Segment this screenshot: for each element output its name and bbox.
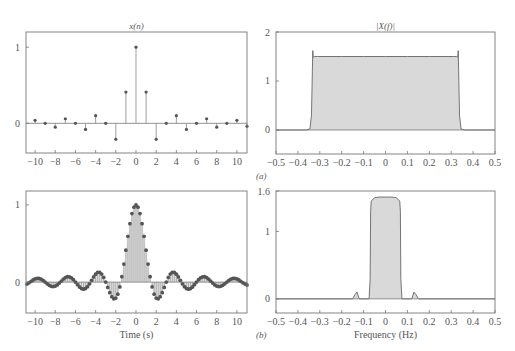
chart-title: |X(f)| (376, 21, 395, 31)
x-axis-label: Time (s) (120, 329, 154, 341)
stem-marker (44, 122, 47, 125)
stem-marker (74, 122, 77, 125)
stem-marker (205, 117, 208, 120)
x-tick-label: −10 (27, 316, 43, 327)
x-tick-label: 0 (383, 157, 388, 168)
x-tick-label: 10 (232, 156, 242, 167)
stem-marker (235, 119, 238, 122)
x-tick-label: −0.4 (289, 316, 307, 327)
stem-marker (175, 114, 178, 117)
stem-marker (124, 91, 127, 94)
figure: −10−8−6−4−2024681001x(n)−0.5−0.4−0.3−0.2… (0, 0, 515, 351)
stem-marker (64, 117, 67, 120)
x-tick-label: 4 (174, 316, 179, 327)
x-tick-label: −0.2 (333, 157, 351, 168)
stem-marker (130, 212, 134, 216)
stem-marker (138, 212, 142, 216)
x-tick-label: −0.1 (355, 157, 373, 168)
stem-marker (128, 222, 132, 226)
stem-marker (158, 295, 162, 299)
chart-title: x(n) (128, 21, 144, 31)
x-tick-label: −6 (70, 316, 81, 327)
stem-marker (195, 122, 198, 125)
stem-marker (108, 291, 112, 295)
x-tick-label: −0.3 (311, 316, 329, 327)
x-tick-label: 0 (383, 316, 388, 327)
x-tick-label: 8 (214, 156, 219, 167)
x-tick-label: −8 (50, 316, 61, 327)
stem-marker (54, 126, 57, 129)
stem-marker (104, 122, 107, 125)
stem-marker (164, 280, 168, 284)
x-tick-label: 0.3 (445, 157, 458, 168)
stem-marker (90, 278, 94, 282)
stem-marker (104, 280, 108, 284)
spectrum-fill (276, 197, 495, 299)
y-tick-label: 1 (15, 199, 20, 210)
x-tick-label: −8 (50, 156, 61, 167)
x-tick-label: −0.3 (311, 157, 329, 168)
x-tick-label: 10 (232, 316, 242, 327)
panel-tr: −0.5−0.4−0.3−0.2−0.100.10.20.30.40.5012|… (256, 21, 501, 181)
x-axis-label: Frequency (Hz) (354, 329, 417, 341)
x-tick-label: 6 (194, 316, 199, 327)
stem-marker (102, 276, 106, 280)
x-tick-label: −6 (70, 156, 81, 167)
x-tick-label: 0.5 (489, 316, 502, 327)
stem-marker (140, 222, 144, 226)
x-tick-label: 8 (214, 316, 219, 327)
stem-marker (152, 292, 156, 296)
x-tick-label: −0.2 (333, 316, 351, 327)
x-tick-label: 0.4 (467, 316, 480, 327)
stem-marker (215, 126, 218, 129)
panel-tag: (b) (256, 330, 267, 340)
axes-frame (26, 32, 247, 153)
stem-marker (178, 278, 182, 282)
x-tick-label: 6 (194, 156, 199, 167)
stem-marker (148, 275, 152, 279)
stem-marker (88, 282, 92, 286)
stem-marker (106, 286, 110, 290)
x-tick-label: −2 (110, 156, 121, 167)
stem-marker (142, 234, 146, 238)
stem-marker (122, 262, 126, 266)
x-tick-label: −0.5 (267, 316, 285, 327)
y-tick-label: 1 (265, 75, 270, 86)
panel-tag: (a) (256, 171, 267, 181)
panel-tl: −10−8−6−4−2024681001x(n) (15, 21, 249, 167)
y-tick-label: 0 (265, 124, 270, 135)
x-tick-label: 0 (133, 156, 138, 167)
stem-marker (144, 91, 147, 94)
stem-marker (100, 272, 104, 276)
stem-marker (150, 285, 154, 289)
y-tick-label: 1 (15, 42, 20, 53)
stem-marker (136, 205, 140, 209)
stem-marker (126, 234, 130, 238)
x-tick-label: 2 (154, 156, 159, 167)
y-tick-label: 0 (265, 293, 270, 304)
stem-marker (166, 276, 170, 280)
stem-marker (185, 128, 188, 131)
panel-bl: −10−8−6−4−2024681001Time (s) (15, 191, 249, 341)
stem-marker (114, 138, 117, 141)
x-tick-label: −0.1 (355, 316, 373, 327)
stem-marker (114, 296, 118, 300)
stem-marker (146, 262, 150, 266)
stem-marker (94, 114, 97, 117)
x-tick-label: 0.3 (445, 316, 458, 327)
stem-marker (84, 128, 87, 131)
stem-marker (134, 46, 137, 49)
stem-marker (225, 122, 228, 125)
x-tick-label: 4 (174, 156, 179, 167)
stem-marker (160, 291, 164, 295)
x-tick-label: −0.5 (267, 157, 285, 168)
x-tick-label: −4 (90, 156, 101, 167)
stem-marker (33, 119, 36, 122)
panel-br: −0.5−0.4−0.3−0.2−0.100.10.20.30.40.5011.… (256, 186, 501, 342)
x-tick-label: 2 (154, 316, 159, 327)
stem-marker (120, 275, 124, 279)
stem-marker (118, 285, 122, 289)
x-tick-label: −2 (110, 316, 121, 327)
x-tick-label: −0.4 (289, 157, 307, 168)
y-tick-label: 0 (15, 277, 20, 288)
